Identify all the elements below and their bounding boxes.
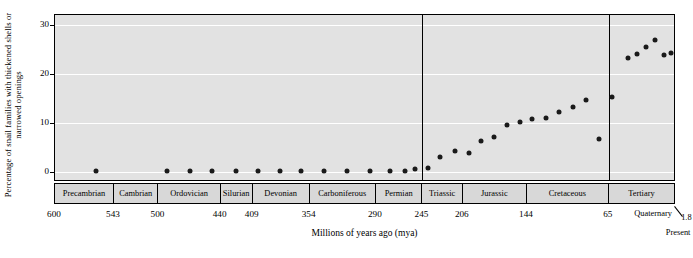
era-divider bbox=[422, 15, 423, 180]
y-tick bbox=[50, 74, 55, 75]
data-point bbox=[653, 37, 658, 42]
period-cell: Precambrian bbox=[55, 184, 114, 203]
data-point bbox=[634, 52, 639, 57]
data-point bbox=[609, 94, 614, 99]
data-point bbox=[413, 167, 418, 172]
data-point bbox=[543, 116, 548, 121]
y-tick-label: 0 bbox=[33, 167, 49, 176]
x-tick-label: 65 bbox=[603, 209, 612, 219]
period-cell: Tertiary bbox=[609, 184, 674, 203]
x-tick-label: 290 bbox=[368, 209, 382, 219]
data-point bbox=[425, 166, 430, 171]
data-point bbox=[597, 136, 602, 141]
quaternary-label: Quaternary bbox=[634, 209, 672, 218]
x-tick-label: 543 bbox=[106, 209, 120, 219]
quaternary-value: 1.8 bbox=[681, 213, 691, 222]
data-point bbox=[255, 169, 260, 174]
data-point bbox=[187, 169, 192, 174]
data-point bbox=[388, 169, 393, 174]
data-point bbox=[491, 134, 496, 139]
period-cell: Carboniferous bbox=[310, 184, 376, 203]
data-point bbox=[322, 169, 327, 174]
y-tick-label: 10 bbox=[33, 118, 49, 127]
x-tick-label: 206 bbox=[455, 209, 469, 219]
x-tick-label: 500 bbox=[151, 209, 165, 219]
data-point bbox=[164, 169, 169, 174]
data-point bbox=[661, 53, 666, 58]
data-point bbox=[505, 123, 510, 128]
data-point bbox=[668, 51, 673, 56]
data-point bbox=[530, 117, 535, 122]
data-point bbox=[94, 169, 99, 174]
y-gridline bbox=[55, 74, 674, 75]
x-tick-label: 440 bbox=[213, 209, 227, 219]
period-cell: Cambrian bbox=[114, 184, 159, 203]
geologic-period-band: PrecambrianCambrianOrdovicianSilurianDev… bbox=[54, 183, 675, 204]
data-point bbox=[210, 169, 215, 174]
data-point bbox=[583, 98, 588, 103]
data-point bbox=[402, 169, 407, 174]
y-tick bbox=[50, 123, 55, 124]
data-point bbox=[479, 138, 484, 143]
x-tick-label: 245 bbox=[415, 209, 429, 219]
chart-figure: Percentage of snail families with thicke… bbox=[0, 0, 693, 258]
period-cell: Permian bbox=[376, 184, 423, 203]
y-tick bbox=[50, 172, 55, 173]
y-axis-title: Percentage of snail families with thicke… bbox=[3, 10, 23, 200]
x-tick-label: 144 bbox=[519, 209, 533, 219]
tick-slash bbox=[674, 206, 683, 217]
period-cell: Silurian bbox=[221, 184, 253, 203]
y-gridline bbox=[55, 25, 674, 26]
data-point bbox=[277, 169, 282, 174]
data-point bbox=[467, 150, 472, 155]
y-gridline bbox=[55, 123, 674, 124]
data-point bbox=[643, 45, 648, 50]
data-point bbox=[344, 169, 349, 174]
x-tick-label: 600 bbox=[47, 209, 61, 219]
y-gridline bbox=[55, 172, 674, 173]
x-tick-label: 354 bbox=[302, 209, 316, 219]
x-axis-title: Millions of years ago (mya) bbox=[54, 228, 675, 239]
period-cell: Ordovician bbox=[159, 184, 221, 203]
data-point bbox=[299, 169, 304, 174]
y-tick-label: 20 bbox=[33, 69, 49, 78]
period-cell: Devonian bbox=[253, 184, 310, 203]
x-tick-label: 409 bbox=[245, 209, 259, 219]
data-point bbox=[557, 110, 562, 115]
plot-area: 0102030 bbox=[54, 14, 675, 181]
period-cell: Cretaceous bbox=[527, 184, 609, 203]
data-point bbox=[367, 169, 372, 174]
data-point bbox=[438, 155, 443, 160]
data-point bbox=[234, 169, 239, 174]
data-point bbox=[452, 148, 457, 153]
data-point bbox=[570, 105, 575, 110]
y-tick bbox=[50, 25, 55, 26]
data-point bbox=[517, 120, 522, 125]
period-cell: Triassic bbox=[422, 184, 462, 203]
period-cell: Jurassic bbox=[463, 184, 527, 203]
y-tick-label: 30 bbox=[33, 20, 49, 29]
data-point bbox=[626, 56, 631, 61]
